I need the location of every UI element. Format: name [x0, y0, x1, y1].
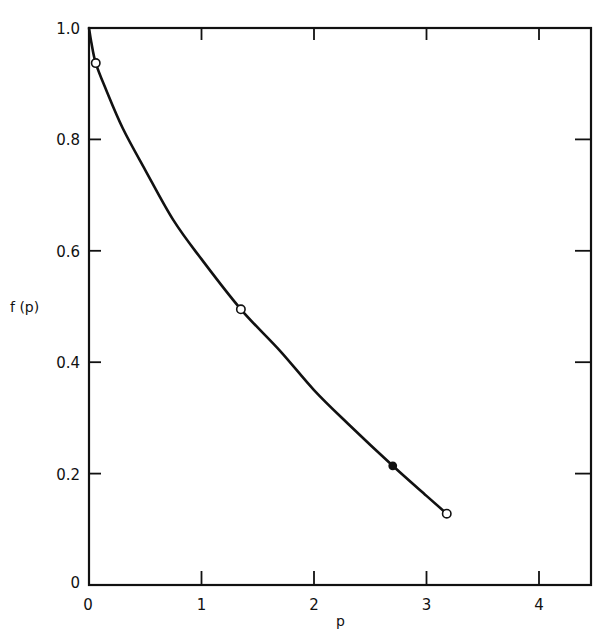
data-curve [89, 28, 447, 514]
y-tick-label: 0.4 [56, 354, 80, 372]
x-axis-title: p [336, 613, 345, 629]
axis-ticks [89, 28, 591, 585]
y-tick-label: 0.6 [56, 243, 80, 261]
y-tick-label: 1.0 [56, 20, 80, 38]
open-point-marker [443, 510, 451, 518]
plot-frame [89, 28, 591, 585]
data-markers [92, 59, 451, 518]
x-tick-label: 1 [197, 596, 207, 614]
y-tick-label: 0.2 [56, 466, 80, 484]
x-tick-label: 4 [534, 596, 544, 614]
y-tick-label: 0.8 [56, 131, 80, 149]
tick-labels: 0123400.20.40.60.81.0 [56, 20, 544, 614]
y-tick-label: 0 [70, 574, 80, 592]
x-tick-label: 3 [422, 596, 432, 614]
x-tick-label: 2 [309, 596, 319, 614]
open-point-marker [92, 59, 100, 67]
open-point-marker [237, 305, 245, 313]
x-tick-label: 0 [83, 596, 93, 614]
filled-point-marker [389, 462, 396, 469]
chart: 0123400.20.40.60.81.0 f (p) p [0, 0, 605, 633]
y-axis-title: f (p) [10, 299, 39, 315]
